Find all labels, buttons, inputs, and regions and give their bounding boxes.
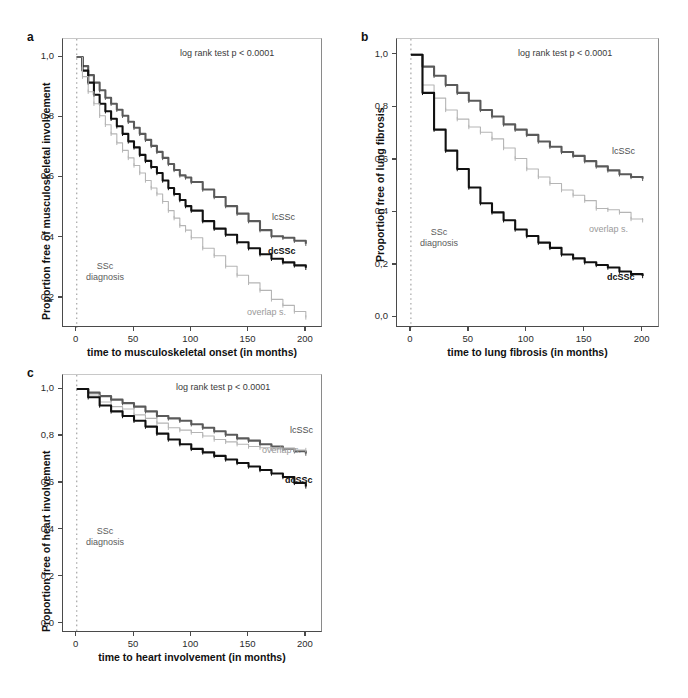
panel-b-x-axis-label: time to lung fibrosis (in months) <box>396 346 659 358</box>
x-tick-label: 100 <box>510 333 542 344</box>
panel-c-label-overlap: overlap s. <box>262 445 301 455</box>
y-tick-mark <box>58 481 62 482</box>
panel-b-plot-area <box>396 38 659 327</box>
censor-ticks-overlaps <box>88 393 306 453</box>
y-tick-label: 0,8 <box>356 100 388 111</box>
x-tick-label: 50 <box>117 638 149 649</box>
x-tick-mark <box>304 632 305 636</box>
x-tick-mark <box>583 327 584 331</box>
y-tick-label: 0,4 <box>356 205 388 216</box>
y-tick-label: 0,6 <box>22 476 54 487</box>
panel-b-diagnosis-annotation: SSc diagnosis <box>410 227 468 250</box>
panel-a-diagnosis-line1: SSc <box>76 261 134 272</box>
panel-b-label-overlap: overlap s. <box>589 224 628 234</box>
y-tick-label: 0,0 <box>356 310 388 321</box>
panel-c-letter: c <box>27 366 34 380</box>
x-tick-mark <box>133 327 134 331</box>
panel-a: a Proportion free of musculoskeletal inv… <box>0 0 344 360</box>
censor-ticks-dcssc <box>88 395 306 489</box>
panel-b-y-axis-label: Proportion free of lung fibrosis <box>374 107 386 262</box>
panel-a-diagnosis-annotation: SSc diagnosis <box>76 261 134 284</box>
y-tick-mark <box>58 528 62 529</box>
y-tick-label: 1,0 <box>22 382 54 393</box>
panel-c-logrank-annotation: log rank test p < 0.0001 <box>176 382 270 392</box>
panel-a-curves <box>63 39 323 328</box>
x-tick-mark <box>133 632 134 636</box>
x-tick-mark <box>247 327 248 331</box>
y-tick-mark <box>58 575 62 576</box>
y-tick-mark <box>58 176 62 177</box>
y-tick-label: 0,6 <box>356 153 388 164</box>
panel-a-label-lcssc: lcSSc <box>272 212 295 222</box>
censor-ticks-overlaps <box>422 83 642 223</box>
panel-a-plot-area <box>62 38 322 327</box>
y-tick-mark <box>58 56 62 57</box>
panel-b-diagnosis-line2: diagnosis <box>410 238 468 249</box>
x-tick-label: 150 <box>568 333 600 344</box>
panel-a-label-dcssc: dcSSc <box>268 246 296 256</box>
y-tick-mark <box>58 116 62 117</box>
panel-b-logrank-annotation: log rank test p < 0.0001 <box>518 48 612 58</box>
y-tick-mark <box>392 211 396 212</box>
y-tick-label: 0,6 <box>22 170 54 181</box>
x-tick-label: 50 <box>117 333 149 344</box>
y-tick-mark <box>58 388 62 389</box>
y-tick-label: 0,4 <box>22 523 54 534</box>
panel-c-curves <box>63 375 323 633</box>
x-tick-label: 100 <box>174 333 206 344</box>
y-tick-mark <box>58 236 62 237</box>
x-tick-label: 200 <box>289 638 321 649</box>
x-tick-mark <box>525 327 526 331</box>
panel-b-letter: b <box>361 30 368 44</box>
y-tick-mark <box>392 106 396 107</box>
y-tick-label: 0,8 <box>22 110 54 121</box>
panel-b: b Proportion free of lung fibrosis log r… <box>344 0 688 360</box>
x-tick-label: 0 <box>60 333 92 344</box>
panel-c-plot-area <box>62 374 322 632</box>
panel-c-label-dcssc: dcSSc <box>285 475 313 485</box>
x-tick-mark <box>304 327 305 331</box>
panel-c-x-axis-label: time to heart involvement (in months) <box>62 651 322 663</box>
y-tick-mark <box>392 263 396 264</box>
x-tick-mark <box>247 632 248 636</box>
x-tick-mark <box>190 632 191 636</box>
x-tick-mark <box>75 327 76 331</box>
panel-c-label-lcssc: lcSSc <box>290 425 313 435</box>
y-tick-mark <box>392 158 396 159</box>
panel-b-diagnosis-line1: SSc <box>410 227 468 238</box>
x-tick-label: 150 <box>232 333 264 344</box>
y-tick-mark <box>392 53 396 54</box>
y-tick-label: 0,2 <box>356 258 388 269</box>
y-tick-label: 0,8 <box>22 429 54 440</box>
x-tick-label: 200 <box>626 333 658 344</box>
x-tick-label: 150 <box>232 638 264 649</box>
x-tick-mark <box>641 327 642 331</box>
y-tick-label: 1,0 <box>22 50 54 61</box>
survival-curve-figure: a Proportion free of musculoskeletal inv… <box>0 0 688 698</box>
panel-c-diagnosis-annotation: SSc diagnosis <box>76 526 134 549</box>
panel-b-label-lcssc: lcSSc <box>612 146 635 156</box>
x-tick-mark <box>75 632 76 636</box>
y-tick-mark <box>58 296 62 297</box>
x-tick-mark <box>409 327 410 331</box>
x-tick-mark <box>190 327 191 331</box>
y-tick-label: 0,0 <box>22 617 54 628</box>
panel-a-letter: a <box>27 30 34 44</box>
x-tick-label: 100 <box>174 638 206 649</box>
y-tick-label: 0,2 <box>22 570 54 581</box>
x-tick-label: 200 <box>289 333 321 344</box>
censor-ticks-dcssc <box>422 91 642 279</box>
x-tick-label: 0 <box>60 638 92 649</box>
panel-a-label-overlap: overlap s. <box>247 307 286 317</box>
censor-ticks-dcssc <box>82 68 305 270</box>
y-tick-mark <box>58 622 62 623</box>
y-tick-label: 1,0 <box>356 48 388 59</box>
panel-b-curves <box>397 39 660 328</box>
y-tick-mark <box>392 316 396 317</box>
y-tick-label: 0,4 <box>22 231 54 242</box>
panel-a-x-axis-label: time to musculoskeletal onset (in months… <box>62 346 322 358</box>
y-tick-mark <box>58 434 62 435</box>
panel-c-diagnosis-line1: SSc <box>76 526 134 537</box>
y-tick-label: 0,2 <box>22 291 54 302</box>
panel-c-diagnosis-line2: diagnosis <box>76 537 134 548</box>
